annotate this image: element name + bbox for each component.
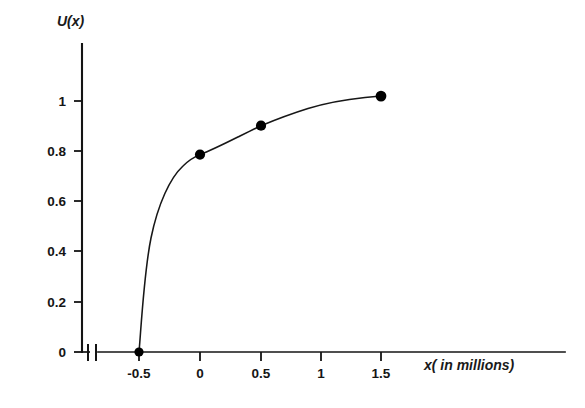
data-point — [134, 347, 143, 356]
data-point — [376, 91, 387, 102]
utility-curve — [139, 96, 381, 352]
y-tick-label-0: 0 — [22, 345, 66, 360]
y-tick-label-0-6: 0.6 — [22, 194, 66, 209]
y-axis-title: U(x) — [57, 13, 84, 29]
data-point — [256, 121, 266, 131]
y-tick-label-0-4: 0.4 — [22, 244, 66, 259]
chart-plot-area — [0, 0, 585, 408]
data-point-markers — [134, 91, 386, 357]
x-tick-label-neg-0-5: -0.5 — [127, 366, 150, 381]
y-tick-label-0-8: 0.8 — [22, 144, 66, 159]
data-point — [195, 150, 205, 160]
x-axis-ticks — [139, 352, 381, 361]
x-tick-label-1-5: 1.5 — [372, 366, 391, 381]
x-tick-label-0: 0 — [196, 366, 204, 381]
x-tick-label-0-5: 0.5 — [252, 366, 271, 381]
chart-figure: U(x) x( in millions) 0 0.2 0.4 0.6 0.8 1… — [0, 0, 585, 408]
y-tick-label-1: 1 — [22, 94, 66, 109]
x-tick-label-1: 1 — [317, 366, 325, 381]
y-axis-ticks — [74, 101, 82, 352]
axis-break-icon — [82, 344, 96, 361]
x-axis-title: x( in millions) — [424, 357, 514, 373]
y-tick-label-0-2: 0.2 — [22, 295, 66, 310]
